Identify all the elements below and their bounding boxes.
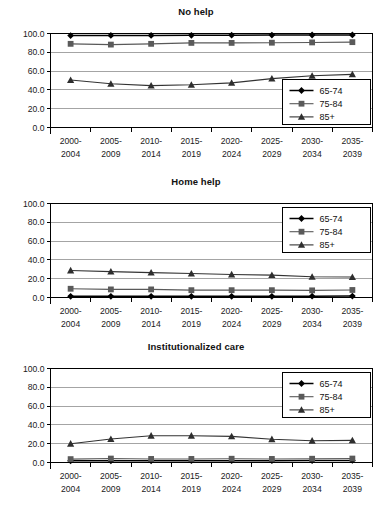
square-marker (148, 41, 154, 47)
square-marker (299, 101, 305, 107)
y-tick-label: 40.0 (28, 85, 45, 95)
square-marker (309, 287, 315, 293)
x-tick-label: 2019 (182, 149, 201, 159)
y-tick-label: 60.0 (28, 66, 45, 76)
diamond-marker (349, 293, 356, 300)
x-tick-label: 2034 (303, 319, 322, 329)
legend-label: 65-74 (320, 86, 343, 96)
x-tick-label: 2030- (301, 306, 323, 316)
square-marker (148, 287, 154, 293)
y-tick-label: 20.0 (28, 439, 45, 449)
square-marker (229, 287, 235, 293)
y-tick-label: 80.0 (28, 382, 45, 392)
y-tick-label: 40.0 (28, 255, 45, 265)
chart-plot-area: 0.020.040.060.080.0100.02000-20042005-20… (0, 170, 392, 340)
square-marker (108, 456, 114, 462)
legend-label: 85+ (320, 405, 335, 415)
x-tick-label: 2029 (262, 484, 281, 494)
legend-label: 75-84 (320, 392, 343, 402)
x-tick-label: 2025- (261, 471, 283, 481)
square-marker (68, 41, 74, 47)
x-tick-label: 2024 (222, 484, 241, 494)
x-tick-label: 2034 (303, 484, 322, 494)
y-tick-label: 80.0 (28, 47, 45, 57)
square-marker (349, 39, 355, 45)
square-marker (188, 40, 194, 46)
diamond-marker (67, 293, 74, 300)
y-tick-label: 100.0 (23, 29, 45, 39)
square-marker (299, 229, 305, 235)
square-marker (188, 287, 194, 293)
x-tick-label: 2035- (341, 471, 363, 481)
x-tick-label: 2025- (261, 136, 283, 146)
square-marker (269, 287, 275, 293)
x-tick-label: 2024 (222, 149, 241, 159)
x-tick-label: 2020- (221, 136, 243, 146)
square-marker (68, 456, 74, 462)
figure-container: No help 0.020.040.060.080.0100.02000-200… (0, 0, 392, 505)
x-tick-label: 2015- (180, 306, 202, 316)
chart-panel-institutionalized-care: Institutionalized care 0.020.040.060.080… (0, 335, 392, 505)
x-tick-label: 2004 (61, 149, 80, 159)
square-marker (309, 456, 315, 462)
x-tick-label: 2014 (142, 484, 161, 494)
y-tick-label: 100.0 (23, 364, 45, 374)
legend-label: 65-74 (320, 379, 343, 389)
x-tick-label: 2009 (101, 484, 120, 494)
x-tick-label: 2005- (100, 306, 122, 316)
legend-label: 65-74 (320, 214, 343, 224)
x-tick-label: 2005- (100, 136, 122, 146)
x-tick-label: 2015- (180, 471, 202, 481)
x-tick-label: 2010- (140, 136, 162, 146)
legend-label: 85+ (320, 112, 335, 122)
square-marker (108, 42, 114, 48)
square-marker (229, 40, 235, 46)
square-marker (229, 456, 235, 462)
legend-label: 75-84 (320, 227, 343, 237)
x-tick-label: 2035- (341, 306, 363, 316)
diamond-marker (309, 32, 316, 39)
chart-plot-area: 0.020.040.060.080.0100.02000-20042005-20… (0, 335, 392, 505)
square-marker (68, 286, 74, 292)
x-tick-label: 2020- (221, 471, 243, 481)
square-marker (299, 394, 305, 400)
square-marker (349, 456, 355, 462)
square-marker (188, 456, 194, 462)
x-tick-label: 2024 (222, 319, 241, 329)
x-tick-label: 2015- (180, 136, 202, 146)
y-tick-label: 20.0 (28, 274, 45, 284)
x-tick-label: 2019 (182, 319, 201, 329)
x-tick-label: 2035- (341, 136, 363, 146)
y-tick-label: 40.0 (28, 420, 45, 430)
x-tick-label: 2019 (182, 484, 201, 494)
x-tick-label: 2030- (301, 471, 323, 481)
square-marker (309, 40, 315, 46)
x-tick-label: 2020- (221, 306, 243, 316)
x-tick-label: 2039 (343, 319, 362, 329)
diamond-marker (148, 293, 155, 300)
x-tick-label: 2014 (142, 319, 161, 329)
x-tick-label: 2009 (101, 149, 120, 159)
triangle-marker (67, 76, 74, 83)
x-tick-label: 2034 (303, 149, 322, 159)
x-tick-label: 2029 (262, 319, 281, 329)
y-tick-label: 20.0 (28, 104, 45, 114)
square-marker (148, 456, 154, 462)
y-tick-label: 60.0 (28, 236, 45, 246)
y-tick-label: 0.0 (33, 293, 45, 303)
x-tick-label: 2025- (261, 306, 283, 316)
y-tick-label: 60.0 (28, 401, 45, 411)
x-tick-label: 2004 (61, 319, 80, 329)
square-marker (108, 287, 114, 293)
x-tick-label: 2005- (100, 471, 122, 481)
square-marker (269, 456, 275, 462)
diamond-marker (349, 32, 356, 39)
x-tick-label: 2004 (61, 484, 80, 494)
y-tick-label: 0.0 (33, 123, 45, 133)
square-marker (349, 287, 355, 293)
x-tick-label: 2030- (301, 136, 323, 146)
x-tick-label: 2010- (140, 306, 162, 316)
y-tick-label: 80.0 (28, 217, 45, 227)
legend-label: 85+ (320, 240, 335, 250)
diamond-marker (309, 293, 316, 300)
